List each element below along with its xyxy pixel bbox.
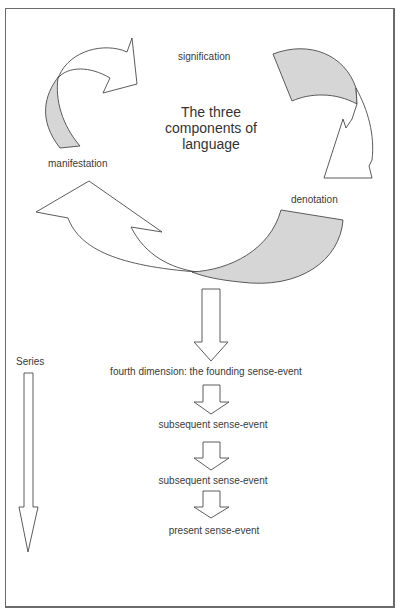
down-arrow-main [194, 289, 228, 361]
down-arrow-step-2 [194, 442, 229, 470]
label-manifestation: manifestation [48, 159, 107, 169]
diagram-canvas [0, 0, 404, 616]
curved-arrow-manifestation-to-signification [46, 38, 137, 148]
label-present-sense-event: present sense-event [169, 526, 260, 536]
title-line-2: components of [165, 120, 257, 136]
series-arrow [19, 373, 38, 552]
diagram-title: The three components of language [165, 104, 257, 152]
label-subsequent-sense-event-1: subsequent sense-event [159, 420, 268, 430]
label-series: Series [16, 357, 44, 367]
down-arrow-step-1 [194, 385, 229, 414]
label-denotation: denotation [291, 195, 338, 205]
curved-arrow-signification-to-denotation [273, 49, 373, 178]
label-founding-sense-event: fourth dimension: the founding sense-eve… [110, 367, 302, 377]
label-subsequent-sense-event-2: subsequent sense-event [159, 476, 268, 486]
title-line-3: language [165, 136, 257, 152]
down-arrow-step-3 [194, 491, 229, 518]
label-signification: signification [178, 52, 230, 62]
title-line-1: The three [165, 104, 257, 120]
